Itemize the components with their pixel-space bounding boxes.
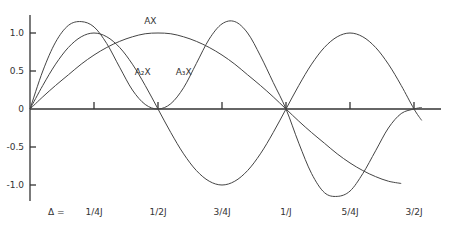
y-tick-label: 0: [18, 104, 24, 114]
x-tick-label: 3/4J: [213, 207, 230, 217]
x-tick-label: 1/J: [280, 207, 291, 217]
x-tick-label: 1/4J: [85, 207, 102, 217]
y-tick-label: -1.0: [6, 180, 24, 190]
curve-label: A₃X: [176, 67, 192, 77]
y-tick-label: -0.5: [6, 142, 24, 152]
curve-label: AX: [144, 16, 156, 26]
curve-label: A₂X: [135, 67, 151, 77]
y-tick-label: 1.0: [10, 28, 25, 38]
curve-labels: AXA₂XA₃X: [135, 16, 192, 77]
curve-ax: [30, 33, 401, 183]
x-tick-label: 3/2J: [405, 207, 422, 217]
x-axis: 1/4J1/2J3/4J1/J5/4J3/2J: [30, 102, 441, 217]
x-tick-label: 1/2J: [149, 207, 166, 217]
x-tick-label: 5/4J: [341, 207, 358, 217]
x-axis-label: Δ =: [48, 207, 65, 217]
chart: 1.00.50-0.5-1.0 1/4J1/2J3/4J1/J5/4J3/2J …: [0, 0, 455, 227]
y-tick-label: 0.5: [10, 66, 24, 76]
